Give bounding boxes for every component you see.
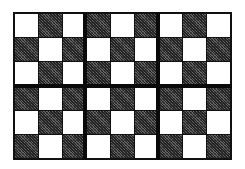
block-divider-horizontal <box>13 84 232 88</box>
board-cell-light <box>135 38 158 61</box>
board-cell-light <box>159 111 182 134</box>
board-cell-dark <box>183 111 206 134</box>
board-cell-dark <box>159 135 182 158</box>
board-cell-dark <box>15 135 38 158</box>
board-cell-light <box>15 14 38 37</box>
board-cell-dark <box>207 86 230 109</box>
board-cell-dark <box>39 14 62 37</box>
board-cell-light <box>39 86 62 109</box>
board-cell-dark <box>159 86 182 109</box>
board-cell-light <box>111 62 134 85</box>
board-cell-light <box>135 86 158 109</box>
board-cell-dark <box>39 62 62 85</box>
board-cell-dark <box>87 111 110 134</box>
board-cell-dark <box>207 135 230 158</box>
board-cell-dark <box>87 14 110 37</box>
board-cell-light <box>39 38 62 61</box>
board-cell-light <box>183 135 206 158</box>
board-cell-light <box>111 111 134 134</box>
board-cell-dark <box>135 62 158 85</box>
board-cell-dark <box>183 14 206 37</box>
board-cell-dark <box>39 111 62 134</box>
board-cell-light <box>87 86 110 109</box>
board-cell-light <box>159 62 182 85</box>
board-cell-dark <box>15 38 38 61</box>
board-cell-light <box>207 14 230 37</box>
board-cell-light <box>183 86 206 109</box>
board-cell-dark <box>111 86 134 109</box>
board-cell-light <box>207 111 230 134</box>
board-cell-light <box>135 135 158 158</box>
board-cell-dark <box>87 62 110 85</box>
board-cell-dark <box>183 62 206 85</box>
board-cell-light <box>87 135 110 158</box>
board-cell-light <box>15 111 38 134</box>
board-cell-light <box>15 62 38 85</box>
board-cell-light <box>111 14 134 37</box>
board-cell-dark <box>111 135 134 158</box>
board-cell-light <box>87 38 110 61</box>
board-cell-light <box>183 38 206 61</box>
board-cell-dark <box>207 38 230 61</box>
board-cell-light <box>207 62 230 85</box>
board-cell-light <box>159 14 182 37</box>
board-cell-dark <box>111 38 134 61</box>
board-cell-dark <box>135 111 158 134</box>
board-cell-light <box>39 135 62 158</box>
board-cell-dark <box>15 86 38 109</box>
board-cell-dark <box>135 14 158 37</box>
board-cell-dark <box>159 38 182 61</box>
